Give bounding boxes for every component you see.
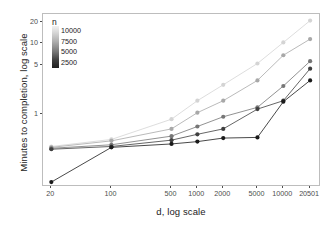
data-point bbox=[281, 84, 285, 88]
data-point bbox=[195, 124, 199, 128]
data-point bbox=[221, 99, 225, 103]
data-point bbox=[49, 180, 53, 184]
data-point bbox=[49, 147, 53, 151]
y-axis-title: Minutes to completion, log scale bbox=[18, 28, 29, 178]
data-point bbox=[195, 111, 199, 115]
data-point bbox=[169, 127, 173, 131]
chart-figure: Minutes to completion, log scale d, log … bbox=[0, 0, 335, 225]
data-point bbox=[169, 117, 173, 121]
y-tick-label: 5 bbox=[20, 60, 38, 69]
data-point bbox=[255, 135, 259, 139]
data-point bbox=[109, 145, 113, 149]
data-point bbox=[281, 100, 285, 104]
data-point bbox=[169, 134, 173, 138]
data-point bbox=[195, 132, 199, 136]
data-point bbox=[109, 139, 113, 143]
legend-entry: 10000 bbox=[61, 26, 81, 35]
legend-entry: 2500 bbox=[61, 58, 77, 67]
data-point bbox=[195, 140, 199, 144]
legend-entry: 7500 bbox=[61, 37, 77, 46]
y-tick-label: 1 bbox=[20, 109, 38, 118]
data-point bbox=[255, 107, 259, 111]
data-point bbox=[221, 136, 225, 140]
series-line bbox=[51, 69, 310, 150]
legend-entry: 5000 bbox=[61, 47, 77, 56]
data-point bbox=[221, 115, 225, 119]
data-point bbox=[308, 59, 312, 63]
data-point bbox=[308, 67, 312, 71]
legend: n 10000750050002500 bbox=[52, 17, 122, 69]
y-tick-label: 20 bbox=[20, 17, 38, 26]
data-point bbox=[221, 83, 225, 87]
y-tick-label: 10 bbox=[20, 38, 38, 47]
legend-colorbar bbox=[52, 26, 59, 68]
data-point bbox=[221, 127, 225, 131]
x-axis-title: d, log scale bbox=[42, 206, 320, 217]
data-point bbox=[255, 61, 259, 65]
data-point bbox=[195, 99, 199, 103]
data-point bbox=[169, 142, 173, 146]
x-tick-label: 20 bbox=[30, 189, 70, 198]
x-tick-label: 20501 bbox=[289, 189, 329, 198]
data-point bbox=[308, 78, 312, 82]
data-point bbox=[255, 78, 259, 82]
data-point bbox=[281, 40, 285, 44]
data-point bbox=[281, 53, 285, 57]
x-tick-label: 100 bbox=[90, 189, 130, 198]
data-point bbox=[169, 138, 173, 142]
data-point bbox=[308, 37, 312, 41]
data-point bbox=[308, 18, 312, 22]
